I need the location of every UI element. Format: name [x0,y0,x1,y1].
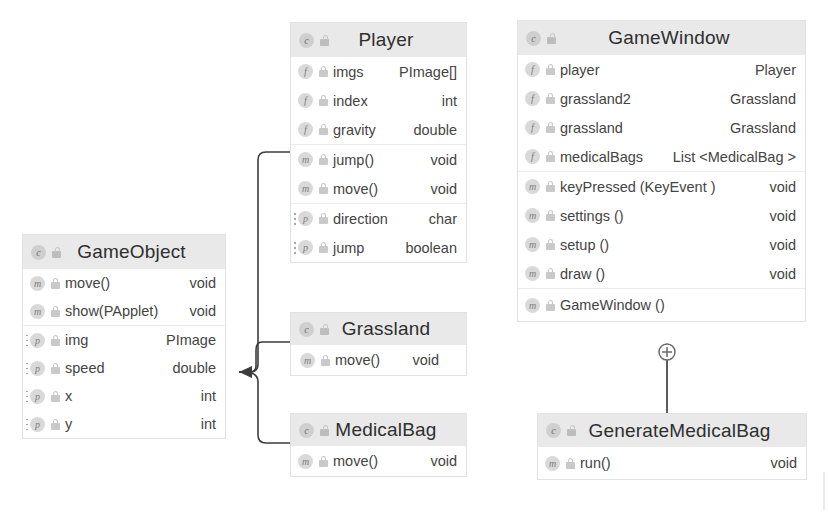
member-type: void [769,208,796,224]
member-row[interactable]: m run() void [538,447,806,479]
member-name: medicalBags [558,149,643,165]
class-box-player[interactable]: c Player f imgs PImage[] f index int [290,22,467,263]
member-row[interactable]: m move() void [291,446,466,476]
class-name-gameobject: GameObject [64,241,217,263]
method-icon: m [525,266,540,281]
lock-icon [50,334,61,347]
member-group-properties: p direction char p jump boolean [291,203,466,262]
member-group-methods: m keyPressed (KeyEvent ) void m settings… [518,171,805,288]
member-row[interactable]: m setup () void [518,230,805,259]
member-row[interactable]: m move() void [23,269,225,297]
member-group-methods: m run() void [538,447,806,479]
property-icon: p [30,333,45,348]
member-name: grassland [558,120,623,136]
member-type: Player [755,62,796,78]
member-row[interactable]: m move() void [291,345,466,375]
field-icon: f [298,122,313,137]
class-body-medicalbag: m move() void [291,446,466,476]
property-icon: p [298,240,313,255]
class-box-generatemedicalbag[interactable]: c GenerateMedicalBag m run() void [537,413,807,480]
class-body-gameobject: m move() void m show(PApplet) void p [23,269,225,438]
class-header-generatemedicalbag: c GenerateMedicalBag [538,414,806,447]
member-name: player [558,62,600,78]
member-name: imgs [331,64,364,80]
lock-icon [545,121,556,134]
class-icon: c [299,33,314,48]
member-type: void [769,179,796,195]
class-name-gamewindow: GameWindow [559,27,797,49]
member-name: jump [331,240,364,256]
member-type: double [413,122,457,138]
class-box-gamewindow[interactable]: c GameWindow f player Player f grassland… [517,20,806,322]
scrollbar-artifact[interactable] [823,472,825,510]
member-type: void [769,266,796,282]
class-body-generatemedicalbag: m run() void [538,447,806,479]
field-icon: f [525,62,540,77]
class-box-grassland[interactable]: c Grassland m move() void [290,312,467,376]
member-name: run() [578,455,611,471]
lock-icon [545,150,556,163]
class-header-player: c Player [291,23,466,57]
member-row[interactable]: f medicalBags List <MedicalBag > [518,142,805,171]
member-name: index [331,93,368,109]
member-row[interactable]: m GameWindow () [518,289,805,321]
member-row[interactable]: m jump() void [291,145,466,174]
lock-icon [50,305,61,318]
lock-icon [318,455,329,468]
lock-icon [545,180,556,193]
member-group-methods: m jump() void m move() void [291,144,466,203]
connector-medicalbag-to-gameobject [239,372,290,443]
member-type: void [189,275,216,291]
member-name: move() [63,275,110,291]
member-row[interactable]: f imgs PImage[] [291,57,466,86]
member-row[interactable]: p y int [23,410,225,438]
method-icon: m [300,353,315,368]
member-row[interactable]: f grassland2 Grassland [518,84,805,113]
member-type: Grassland [730,91,796,107]
lock-icon [50,277,61,290]
lock-icon [319,34,330,47]
member-name: keyPressed (KeyEvent ) [558,179,716,195]
member-group-methods: m move() void [291,345,466,375]
member-group-constructor: m GameWindow () [518,288,805,321]
member-row[interactable]: p direction char [291,204,466,233]
class-box-gameobject[interactable]: c GameObject m move() void m show(PApple… [22,234,226,439]
class-icon: c [299,423,314,438]
member-row[interactable]: f gravity double [291,115,466,144]
field-icon: f [298,93,313,108]
member-name: grassland2 [558,91,631,107]
lock-icon [318,182,329,195]
lock-icon [320,354,331,367]
lock-icon [319,424,330,437]
class-header-grassland: c Grassland [291,313,466,345]
member-row[interactable]: m settings () void [518,201,805,230]
member-row[interactable]: f grassland Grassland [518,113,805,142]
member-group-methods: m move() void [291,446,466,476]
member-row[interactable]: f player Player [518,55,805,84]
member-row[interactable]: p jump boolean [291,233,466,262]
member-row[interactable]: f index int [291,86,466,115]
property-icon: p [30,389,45,404]
class-name-player: Player [332,29,458,51]
lock-icon [318,241,329,254]
member-row[interactable]: m show(PApplet) void [23,297,225,325]
member-row[interactable]: m keyPressed (KeyEvent ) void [518,172,805,201]
member-type: void [430,152,457,168]
class-name-generatemedicalbag: GenerateMedicalBag [579,420,798,442]
member-row[interactable]: p x int [23,382,225,410]
member-name: GameWindow () [558,297,665,313]
member-row[interactable]: p speed double [23,354,225,382]
member-row[interactable]: m draw () void [518,259,805,288]
method-icon: m [525,179,540,194]
member-row[interactable]: p img PImage [23,326,225,354]
method-icon: m [525,237,540,252]
class-box-medicalbag[interactable]: c MedicalBag m move() void [290,413,467,477]
method-icon: m [30,304,45,319]
member-type: void [430,181,457,197]
lock-icon [545,92,556,105]
class-header-gamewindow: c GameWindow [518,21,805,55]
member-row[interactable]: m move() void [291,174,466,203]
lock-icon [50,418,61,431]
member-name: jump() [331,152,374,168]
member-name: img [63,332,88,348]
